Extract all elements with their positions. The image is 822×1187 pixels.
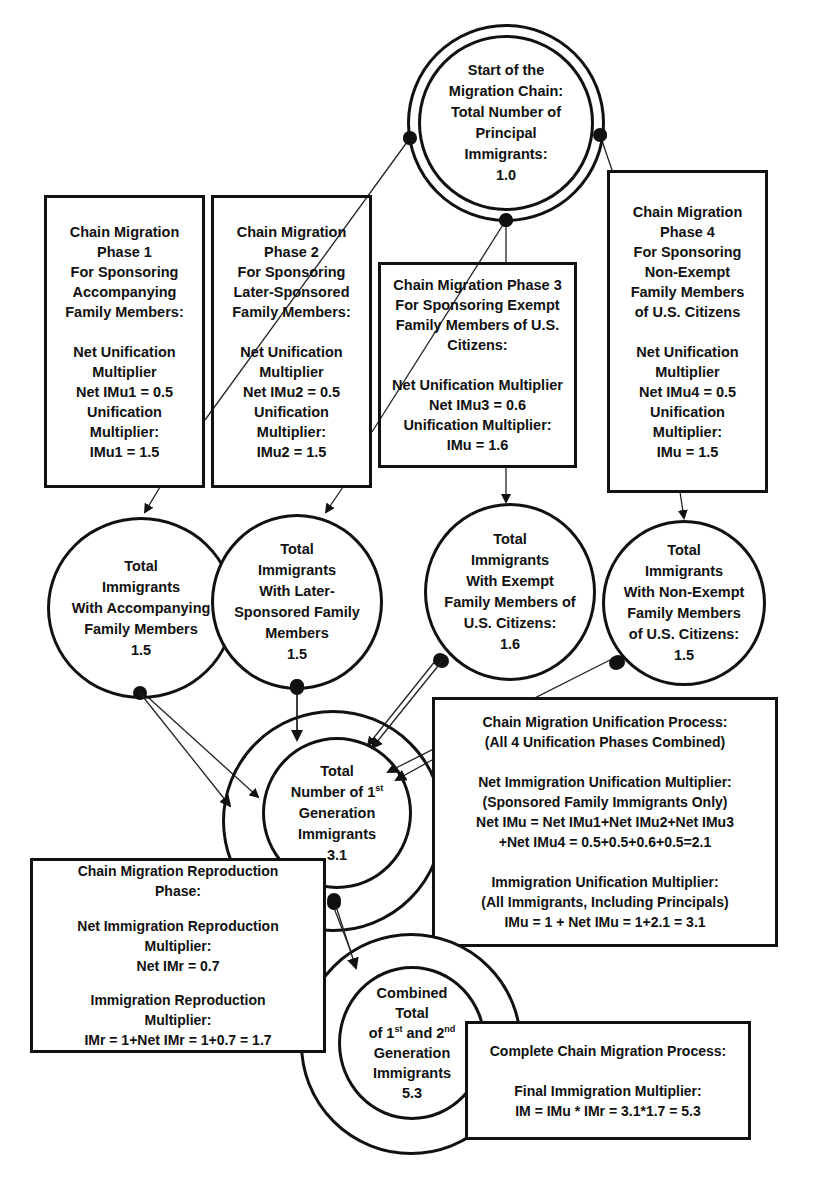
- complete-formula: IM = IMu * IMr = 3.1*1.7 = 5.3: [515, 1101, 701, 1121]
- reproduction-phase-box: Chain Migration Reproduction Phase: Net …: [30, 858, 326, 1053]
- complete-title: Complete Chain Migration Process:: [490, 1041, 726, 1061]
- unification-net-line: (Sponsored Family Immigrants Only): [482, 792, 727, 812]
- unification-title: Chain Migration Unification Process:: [482, 712, 727, 732]
- reproduction-total-line: Multiplier:: [145, 1010, 212, 1030]
- complete-process-box: Complete Chain Migration Process: Final …: [465, 1021, 751, 1140]
- combined-value: 5.3: [402, 1083, 422, 1103]
- combined-line: Combined: [377, 983, 448, 1003]
- combined-ordinal: nd: [444, 1024, 455, 1034]
- reproduction-net-line: Net Immigration Reproduction: [77, 916, 278, 936]
- reproduction-net-value: Net IMr = 0.7: [137, 956, 220, 976]
- first-gen-line-text: Number of 1: [291, 784, 376, 800]
- combined-line: of 1st and 2nd: [369, 1023, 456, 1043]
- unification-total-line: (All Immigrants, Including Principals): [481, 892, 728, 912]
- first-gen-ordinal: st: [375, 783, 383, 793]
- first-gen-line: Total: [320, 761, 354, 782]
- reproduction-title: Phase:: [155, 881, 201, 901]
- combined-line-text: of 1: [369, 1025, 395, 1041]
- combined-line: Generation: [374, 1043, 451, 1063]
- unification-total-line: Immigration Unification Multiplier:: [491, 872, 718, 892]
- complete-line: Final Immigration Multiplier:: [514, 1081, 701, 1101]
- first-gen-value: 3.1: [327, 845, 347, 866]
- first-gen-line: Generation: [299, 803, 376, 824]
- reproduction-total-formula: IMr = 1+Net IMr = 1+0.7 = 1.7: [84, 1030, 271, 1050]
- combined-node: Combined Total of 1st and 2nd Generation…: [338, 966, 486, 1120]
- combined-line-text: and 2: [402, 1025, 444, 1041]
- first-gen-line: Immigrants: [298, 824, 376, 845]
- unification-net-line: Net Immigration Unification Multiplier:: [478, 772, 732, 792]
- combined-line: Total: [395, 1003, 429, 1023]
- unification-net-formula: Net IMu = Net IMu1+Net IMu2+Net IMu3: [476, 812, 734, 832]
- unification-subtitle: (All 4 Unification Phases Combined): [485, 732, 725, 752]
- unification-total-formula: IMu = 1 + Net IMu = 1+2.1 = 3.1: [504, 912, 705, 932]
- reproduction-total-line: Immigration Reproduction: [91, 990, 266, 1010]
- first-gen-line: Number of 1st: [291, 782, 384, 803]
- combined-line: Immigrants: [373, 1063, 451, 1083]
- reproduction-net-line: Multiplier:: [145, 936, 212, 956]
- reproduction-title: Chain Migration Reproduction: [78, 861, 279, 881]
- unification-process-box: Chain Migration Unification Process: (Al…: [432, 697, 778, 947]
- unification-net-formula: +Net IMu4 = 0.5+0.5+0.6+0.5=2.1: [499, 832, 711, 852]
